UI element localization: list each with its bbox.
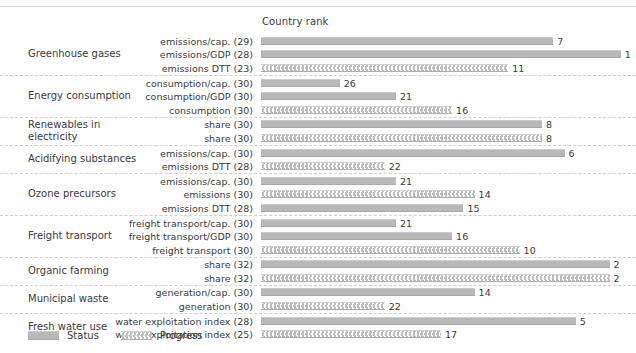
bar-track: 1 bbox=[261, 48, 632, 62]
status-bar bbox=[261, 232, 452, 240]
bar-value-label: 22 bbox=[389, 161, 401, 172]
chart-row: emissions DTT (28)22 bbox=[0, 159, 636, 173]
chart-row: generation/cap. (30)14 bbox=[0, 286, 636, 300]
chart-legend: Status Progress bbox=[28, 330, 217, 341]
bar-track: 21 bbox=[261, 89, 632, 103]
indicator-label: consumption/GDP (30) bbox=[145, 91, 253, 102]
chart-row: freight transport (30)10 bbox=[0, 243, 636, 257]
bar-track: 8 bbox=[261, 131, 632, 145]
bar-value-label: 2 bbox=[614, 259, 620, 270]
bar-track: 26 bbox=[261, 76, 632, 90]
chart-row: freight transport/cap. (30)21 bbox=[0, 216, 636, 230]
bar-value-label: 15 bbox=[467, 202, 479, 213]
bar-track: 16 bbox=[261, 229, 632, 243]
status-bar bbox=[261, 79, 340, 87]
top-divider bbox=[0, 6, 636, 7]
status-bar bbox=[261, 260, 610, 268]
status-bar bbox=[261, 92, 396, 100]
indicator-label: emissions/cap. (30) bbox=[160, 175, 253, 186]
progress-bar bbox=[261, 190, 475, 198]
bar-track: 17 bbox=[261, 327, 632, 341]
indicator-label: freight transport/cap. (30) bbox=[129, 217, 253, 228]
chart-row: emissions/GDP (28)1 bbox=[0, 48, 636, 62]
status-bar bbox=[261, 219, 396, 227]
chart-row: share (32)2 bbox=[0, 271, 636, 285]
bar-track: 6 bbox=[261, 146, 632, 160]
indicator-label: share (30) bbox=[204, 119, 253, 130]
bar-value-label: 26 bbox=[344, 77, 356, 88]
indicator-label: water exploitation index (28) bbox=[115, 315, 253, 326]
bar-track: 11 bbox=[261, 61, 632, 75]
bar-track: 21 bbox=[261, 216, 632, 230]
legend-label-status: Status bbox=[67, 330, 99, 341]
bar-track: 8 bbox=[261, 118, 632, 132]
chart-row: share (30)8 bbox=[0, 118, 636, 132]
chart-row: share (30)8 bbox=[0, 131, 636, 145]
indicator-label: emissions/cap. (29) bbox=[160, 35, 253, 46]
chart-row: water exploitation index (28)5 bbox=[0, 314, 636, 328]
chart-row: emissions (30)14 bbox=[0, 188, 636, 202]
bar-value-label: 16 bbox=[456, 231, 468, 242]
indicator-label: emissions (30) bbox=[183, 189, 253, 200]
progress-bar bbox=[261, 302, 385, 310]
progress-bar bbox=[261, 162, 385, 170]
bar-value-label: 8 bbox=[546, 132, 552, 143]
progress-bar bbox=[261, 246, 520, 254]
status-bar bbox=[261, 317, 576, 325]
bar-value-label: 14 bbox=[479, 287, 491, 298]
bar-value-label: 10 bbox=[524, 244, 536, 255]
chart-group: Greenhouse gasesemissions/cap. (29)7emis… bbox=[0, 34, 636, 76]
bar-track: 21 bbox=[261, 174, 632, 188]
chart-row: share (32)2 bbox=[0, 258, 636, 272]
country-rank-chart: Country rank Greenhouse gasesemissions/c… bbox=[0, 0, 636, 353]
bar-value-label: 7 bbox=[557, 35, 563, 46]
bar-track: 10 bbox=[261, 243, 632, 257]
status-bar bbox=[261, 177, 396, 185]
status-bar bbox=[261, 204, 463, 212]
indicator-label: share (32) bbox=[204, 259, 253, 270]
bar-value-label: 16 bbox=[456, 104, 468, 115]
indicator-label: generation/cap. (30) bbox=[156, 287, 253, 298]
bar-value-label: 14 bbox=[479, 189, 491, 200]
indicator-label: consumption (30) bbox=[169, 104, 253, 115]
indicator-label: freight transport (30) bbox=[152, 244, 253, 255]
chart-group: Energy consumptionconsumption/cap. (30)2… bbox=[0, 76, 636, 118]
bar-value-label: 17 bbox=[445, 329, 457, 340]
bar-value-label: 21 bbox=[400, 91, 412, 102]
chart-group: Acidifying substancesemissions/cap. (30)… bbox=[0, 146, 636, 174]
chart-row: emissions/cap. (29)7 bbox=[0, 34, 636, 48]
bar-track: 22 bbox=[261, 299, 632, 313]
bar-value-label: 21 bbox=[400, 217, 412, 228]
status-bar bbox=[261, 288, 475, 296]
indicator-label: generation (30) bbox=[179, 301, 253, 312]
status-bar bbox=[261, 149, 565, 157]
indicator-label: emissions DTT (28) bbox=[162, 202, 253, 213]
chart-group: Ozone precursorsemissions/cap. (30)21emi… bbox=[0, 174, 636, 216]
bar-track: 22 bbox=[261, 159, 632, 173]
indicator-label: emissions/cap. (30) bbox=[160, 147, 253, 158]
bar-value-label: 11 bbox=[512, 62, 524, 73]
progress-bar bbox=[261, 64, 508, 72]
progress-bar bbox=[261, 106, 452, 114]
bar-track: 2 bbox=[261, 258, 632, 272]
bar-value-label: 5 bbox=[580, 315, 586, 326]
indicator-label: emissions DTT (23) bbox=[162, 62, 253, 73]
indicator-label: share (32) bbox=[204, 272, 253, 283]
chart-row: emissions DTT (23)11 bbox=[0, 61, 636, 75]
legend-swatch-progress-icon bbox=[121, 331, 152, 340]
legend-swatch-status-icon bbox=[28, 331, 59, 340]
status-bar bbox=[261, 50, 621, 58]
chart-row: freight transport/GDP (30)16 bbox=[0, 229, 636, 243]
indicator-label: emissions/GDP (28) bbox=[160, 49, 253, 60]
bar-track: 5 bbox=[261, 314, 632, 328]
bar-value-label: 22 bbox=[389, 301, 401, 312]
progress-bar bbox=[261, 330, 441, 338]
chart-row: generation (30)22 bbox=[0, 299, 636, 313]
chart-row: emissions/cap. (30)6 bbox=[0, 146, 636, 160]
bar-value-label: 1 bbox=[625, 49, 631, 60]
chart-group: Organic farmingshare (32)2share (32)2 bbox=[0, 258, 636, 286]
legend-label-progress: Progress bbox=[160, 330, 203, 341]
bar-track: 14 bbox=[261, 188, 632, 202]
indicator-label: emissions DTT (28) bbox=[162, 161, 253, 172]
bar-value-label: 21 bbox=[400, 175, 412, 186]
